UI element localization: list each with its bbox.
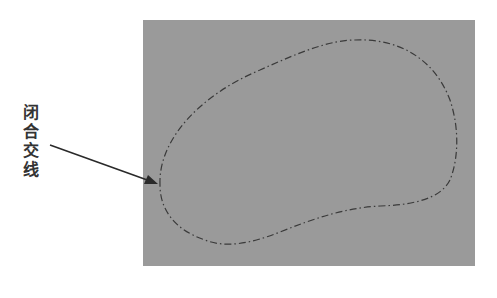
label-char-4: 线 [20,160,42,179]
diagram-overlay [0,0,497,298]
label-char-2: 合 [20,122,42,141]
pointer-arrow-line [50,145,150,181]
label-char-1: 闭 [20,103,42,122]
pointer-arrowhead [144,175,158,184]
label-char-3: 交 [20,141,42,160]
closed-intersection-line-label: 闭 合 交 线 [20,103,42,179]
closed-intersection-curve [160,40,457,244]
